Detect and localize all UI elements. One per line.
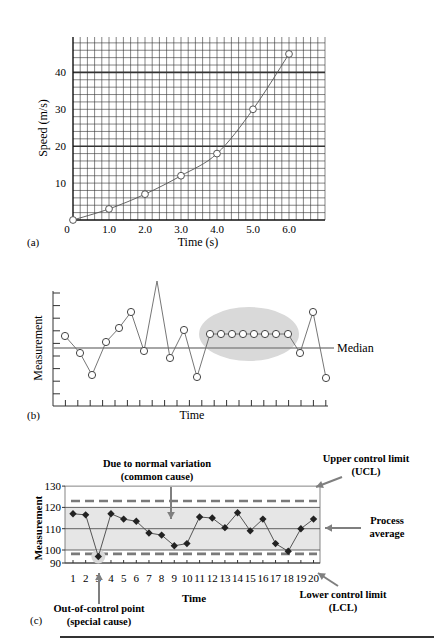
x-tick-label: 0	[64, 223, 70, 235]
x-tick-label: 2.0	[138, 223, 152, 235]
x-tick-label: 4.0	[210, 223, 224, 235]
average-annotation: Process	[370, 515, 404, 526]
x-tick-label: 17	[270, 572, 282, 584]
data-point	[228, 330, 235, 337]
y-tick-label: 130	[45, 480, 62, 492]
x-tick-label: 1.0	[102, 223, 116, 235]
average-arrow-head	[325, 524, 332, 532]
x-tick-label: 3.0	[174, 223, 188, 235]
x-tick-label: 1	[70, 572, 76, 584]
data-point	[102, 338, 109, 345]
data-point	[309, 308, 316, 315]
common-cause-annotation: Due to normal variation	[103, 458, 211, 469]
y-tick-label: 110	[45, 523, 62, 535]
lcl-annotation-2: (LCL)	[329, 602, 358, 614]
x-tick-label: 18	[283, 572, 295, 584]
panel-b-median-label: Median	[337, 341, 374, 355]
panel-a-ylabel: Speed (m/s)	[36, 99, 50, 157]
common-cause-annotation-2: (common cause)	[121, 471, 194, 483]
x-tick-label: 14	[232, 572, 244, 584]
x-tick-label: 9	[172, 572, 178, 584]
data-point	[180, 326, 187, 333]
data-point	[284, 330, 291, 337]
x-tick-label: 6.0	[282, 223, 296, 235]
x-tick-label: 11	[194, 572, 205, 584]
data-point	[115, 324, 122, 331]
y-tick-label: 120	[45, 501, 62, 513]
x-tick-label: 7	[146, 572, 152, 584]
y-tick-label: 30	[55, 103, 67, 115]
panel-c-xlabel: Time	[182, 592, 206, 604]
data-point	[272, 330, 279, 337]
x-tick-label: 16	[257, 572, 269, 584]
panel-b-label: (b)	[27, 409, 40, 422]
panel-c-ylabel: Measurement	[32, 495, 44, 560]
y-tick-label: 20	[55, 140, 67, 152]
data-point	[250, 106, 257, 113]
x-tick-label: 15	[245, 572, 257, 584]
x-tick-label: 2	[83, 572, 89, 584]
average-annotation-2: average	[370, 528, 405, 539]
y-tick-label: 90	[50, 557, 62, 569]
data-point	[250, 330, 257, 337]
data-point	[61, 332, 68, 339]
x-tick-label: 6	[134, 572, 140, 584]
data-point	[127, 308, 134, 315]
data-point	[193, 373, 200, 380]
data-point	[217, 330, 224, 337]
data-point	[239, 330, 246, 337]
data-point	[70, 217, 77, 224]
data-point	[178, 172, 185, 179]
data-point	[76, 349, 83, 356]
panel-b-xlabel: Time	[180, 408, 205, 422]
data-point	[296, 349, 303, 356]
data-point	[142, 191, 149, 198]
x-tick-label: 4	[108, 572, 114, 584]
ucl-annotation: Upper control limit	[323, 453, 410, 464]
data-point	[166, 354, 173, 361]
y-tick-label: 10	[55, 177, 67, 189]
panel-b-ylabel: Measurement	[31, 315, 45, 381]
x-tick-label: 5.0	[246, 223, 260, 235]
panel-c-label: (c)	[30, 614, 43, 627]
ucl-annotation-2: (UCL)	[351, 466, 381, 478]
y-tick-label: 100	[45, 544, 62, 556]
panel-c-control-chart: 9010011012013012345678910111213141516171…	[45, 477, 362, 604]
panel-a-xlabel: Time (s)	[178, 235, 219, 249]
data-point	[206, 330, 213, 337]
x-tick-label: 10	[181, 572, 193, 584]
panel-b-run-chart	[53, 281, 334, 406]
data-point	[322, 374, 329, 381]
data-point	[214, 150, 221, 157]
x-tick-label: 13	[219, 572, 231, 584]
x-tick-label: 8	[159, 572, 165, 584]
data-point	[140, 347, 147, 354]
data-point	[261, 330, 268, 337]
data-point	[88, 371, 95, 378]
special-cause-annotation: Out-of-control point	[53, 603, 145, 614]
special-cause-annotation-2: (special cause)	[67, 616, 132, 628]
data-point	[286, 51, 293, 58]
x-tick-label: 5	[121, 572, 127, 584]
lcl-annotation: Lower control limit	[299, 589, 387, 600]
y-tick-label: 40	[55, 66, 67, 78]
panel-a-speed-chart: 01.02.03.04.05.06.010203040	[55, 37, 325, 235]
panel-a-label: (a)	[27, 236, 40, 249]
figure: 01.02.03.04.05.06.010203040 (a) Time (s)…	[0, 0, 434, 639]
data-point	[106, 206, 113, 213]
x-tick-label: 12	[207, 572, 218, 584]
x-tick-label: 19	[295, 572, 307, 584]
